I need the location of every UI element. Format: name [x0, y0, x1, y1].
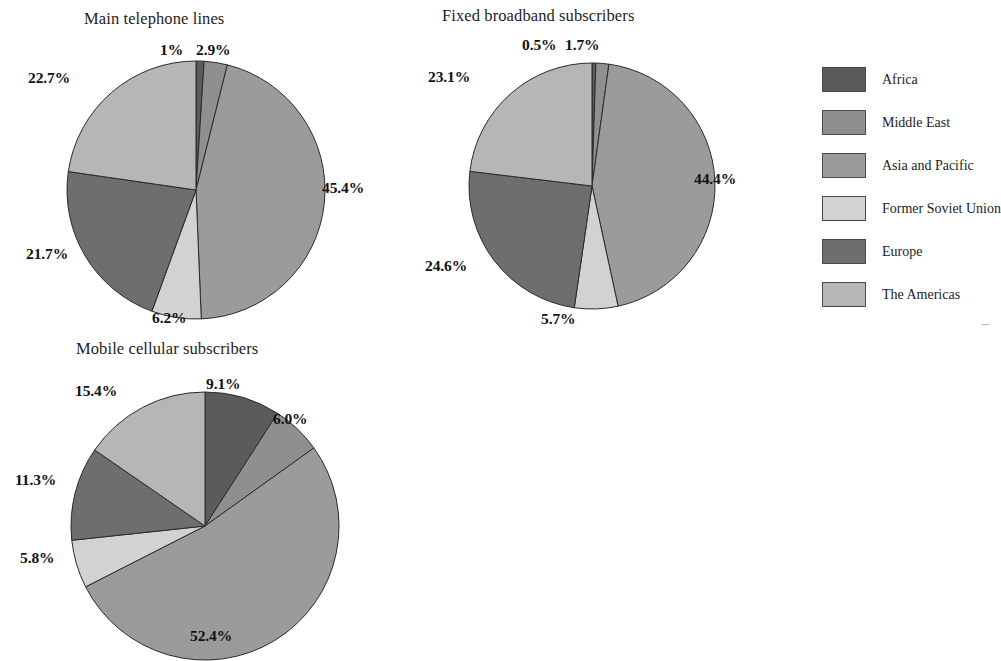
pie-mobile-graphic	[70, 391, 340, 661]
pie-chart-fixed-broadband-subscribers: Fixed broadband subscribers 0.5% 1.7% 44…	[400, 0, 800, 330]
slice-label-europe: 24.6%	[425, 257, 467, 275]
slice-label-europe: 11.3%	[15, 471, 56, 489]
legend-item-former-soviet-union: Former Soviet Union	[822, 187, 1000, 230]
legend-swatch-the-americas	[822, 282, 866, 307]
legend-swatch-former-soviet-union	[822, 196, 866, 221]
slice-label-middle-east: 1.7%	[565, 36, 599, 54]
legend-item-middle-east: Middle East	[822, 101, 1000, 144]
legend-swatch-africa	[822, 67, 866, 92]
chart-title-mobile-cellular-subscribers: Mobile cellular subscribers	[76, 339, 258, 359]
slice-label-asia-pacific: 52.4%	[190, 627, 232, 645]
slice-label-asia-pacific: 44.4%	[694, 170, 736, 188]
pie-telephone-graphic	[66, 60, 326, 320]
slice-label-americas: 22.7%	[28, 69, 70, 87]
chart-title-fixed-broadband-subscribers: Fixed broadband subscribers	[442, 6, 634, 26]
slice-label-africa: 9.1%	[206, 375, 240, 393]
chart-title-main-telephone-lines: Main telephone lines	[84, 9, 224, 29]
pie-slice	[68, 61, 196, 190]
slice-label-americas: 15.4%	[75, 382, 117, 400]
slice-label-former-soviet: 5.8%	[20, 549, 54, 567]
slice-label-europe: 21.7%	[26, 245, 68, 263]
slice-label-middle-east: 2.9%	[196, 41, 230, 59]
legend-label-former-soviet-union: Former Soviet Union	[882, 201, 1001, 217]
slice-label-former-soviet: 5.7%	[541, 310, 575, 328]
legend-swatch-europe	[822, 239, 866, 264]
legend-label-africa: Africa	[882, 72, 918, 88]
pie-chart-mobile-cellular-subscribers: Mobile cellular subscribers 9.1% 6.0% 52…	[0, 330, 400, 639]
pie-slice	[469, 171, 592, 307]
legend-item-the-americas: The Americas	[822, 273, 1000, 316]
pie-broadband-graphic	[468, 62, 716, 310]
slice-label-africa: 1%	[160, 41, 183, 59]
legend-item-africa: Africa	[822, 58, 1000, 101]
slice-label-americas: 23.1%	[428, 68, 470, 86]
legend-label-middle-east: Middle East	[882, 115, 950, 131]
legend-swatch-middle-east	[822, 110, 866, 135]
legend-swatch-asia-and-pacific	[822, 153, 866, 178]
legend-tick-mark	[982, 324, 989, 325]
legend-label-the-americas: The Americas	[882, 287, 960, 303]
slice-label-former-soviet: 6.2%	[152, 309, 186, 327]
legend-label-asia-and-pacific: Asia and Pacific	[882, 158, 974, 174]
slice-label-asia-pacific: 45.4%	[322, 179, 364, 197]
pie-slice	[470, 63, 592, 186]
pie-chart-main-telephone-lines: Main telephone lines 1% 2.9% 45.4% 6.2% …	[0, 0, 400, 330]
slice-label-middle-east: 6.0%	[273, 410, 307, 428]
chart-legend: Africa Middle East Asia and Pacific Form…	[822, 58, 1000, 316]
slice-label-africa: 0.5%	[522, 36, 556, 54]
legend-label-europe: Europe	[882, 244, 922, 260]
legend-item-europe: Europe	[822, 230, 1000, 273]
legend-item-asia-and-pacific: Asia and Pacific	[822, 144, 1000, 187]
